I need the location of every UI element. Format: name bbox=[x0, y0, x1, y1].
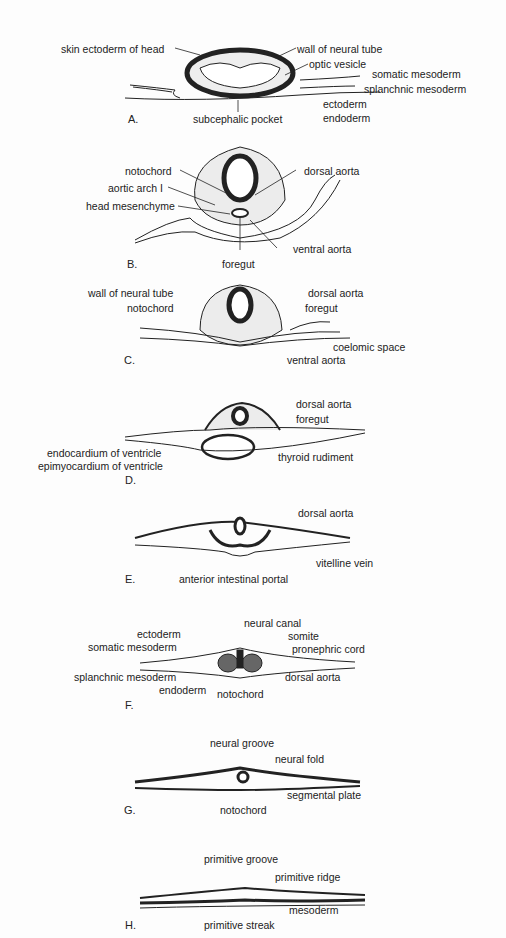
annotation-optic-vesicle: optic vesicle bbox=[309, 58, 366, 70]
annotation-neural-canal: neural canal bbox=[244, 617, 301, 629]
annotation-epimyocardium-of-ventricle: epimyocardium of ventricle bbox=[38, 460, 163, 472]
annotation-coelomic-space: coelomic space bbox=[333, 341, 405, 353]
panel-b-drawing bbox=[135, 147, 340, 243]
annotation-neural-groove: neural groove bbox=[210, 737, 274, 749]
annotation-mesoderm: mesoderm bbox=[289, 904, 339, 916]
annotation-neural-fold: neural fold bbox=[275, 753, 324, 765]
annotation-foregut: foregut bbox=[296, 413, 329, 425]
annotation-primitive-ridge: primitive ridge bbox=[275, 871, 340, 883]
annotation-vitelline-vein: vitelline vein bbox=[316, 557, 373, 569]
panel-label-e: E. bbox=[125, 573, 135, 585]
annotation-notochord: notochord bbox=[127, 302, 174, 314]
annotation-foregut: foregut bbox=[305, 302, 338, 314]
annotation-primitive-groove: primitive groove bbox=[204, 853, 278, 865]
panel-label-c: C. bbox=[124, 354, 135, 366]
annotation-wall-of-neural-tube: wall of neural tube bbox=[88, 287, 173, 299]
annotation-splanchnic-mesoderm: splanchnic mesoderm bbox=[74, 671, 176, 683]
annotation-ectoderm: ectoderm bbox=[137, 628, 181, 640]
annotation-skin-ectoderm-of-head: skin ectoderm of head bbox=[61, 43, 164, 55]
annotation-endoderm: endoderm bbox=[323, 112, 370, 124]
annotation-ventral-aorta: ventral aorta bbox=[287, 354, 345, 366]
annotation-primitive-streak: primitive streak bbox=[204, 919, 275, 931]
annotation-ventral-aorta: ventral aorta bbox=[293, 243, 351, 255]
annotation-wall-of-neural-tube: wall of neural tube bbox=[297, 43, 382, 55]
annotation-pronephric-cord: pronephric cord bbox=[292, 643, 365, 655]
panel-label-f: F. bbox=[125, 699, 134, 711]
annotation-dorsal-aorta: dorsal aorta bbox=[296, 398, 351, 410]
annotation-head-mesenchyme: head mesenchyme bbox=[86, 200, 175, 212]
panel-label-b: B. bbox=[127, 258, 137, 270]
annotation-notochord: notochord bbox=[220, 804, 267, 816]
panel-label-d: D. bbox=[125, 474, 136, 486]
annotation-splanchnic-mesoderm: splanchnic mesoderm bbox=[364, 83, 466, 95]
panel-label-a: A. bbox=[128, 113, 138, 125]
panel-g-drawing bbox=[135, 768, 360, 790]
annotation-thyroid-rudiment: thyroid rudiment bbox=[278, 451, 353, 463]
annotation-foregut: foregut bbox=[222, 258, 255, 270]
panel-e-drawing bbox=[135, 518, 350, 556]
annotation-somatic-mesoderm: somatic mesoderm bbox=[372, 68, 461, 80]
annotation-dorsal-aorta: dorsal aorta bbox=[285, 671, 340, 683]
annotation-notochord: notochord bbox=[217, 688, 264, 700]
annotation-aortic-arch-i: aortic arch I bbox=[108, 182, 163, 194]
annotation-ectoderm: ectoderm bbox=[323, 98, 367, 110]
annotation-dorsal-aorta: dorsal aorta bbox=[298, 507, 353, 519]
panel-label-g: G. bbox=[124, 804, 136, 816]
annotation-segmental-plate: segmental plate bbox=[287, 789, 361, 801]
annotation-anterior-intestinal-portal: anterior intestinal portal bbox=[179, 573, 288, 585]
annotation-dorsal-aorta: dorsal aorta bbox=[308, 287, 363, 299]
annotation-endoderm: endoderm bbox=[159, 684, 206, 696]
annotation-endocardium-of-ventricle: endocardium of ventricle bbox=[47, 447, 161, 459]
annotation-somite: somite bbox=[288, 630, 319, 642]
panel-label-h: H. bbox=[125, 919, 136, 931]
annotation-dorsal-aorta: dorsal aorta bbox=[304, 165, 359, 177]
annotation-notochord: notochord bbox=[125, 165, 172, 177]
annotation-subcephalic-pocket: subcephalic pocket bbox=[193, 113, 282, 125]
annotation-somatic-mesoderm: somatic mesoderm bbox=[88, 641, 177, 653]
